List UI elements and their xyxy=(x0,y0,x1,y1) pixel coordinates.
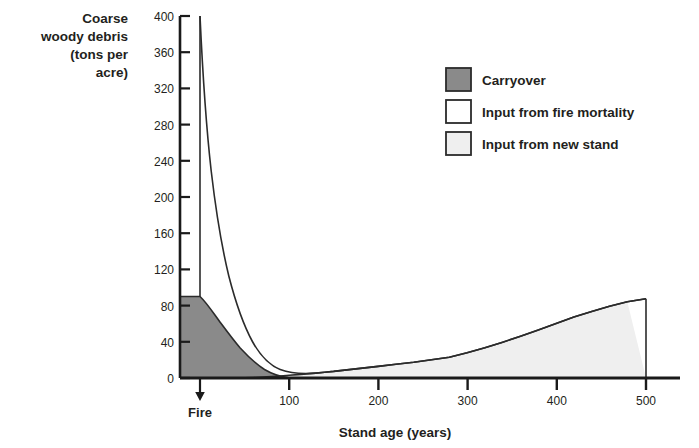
legend-label: Input from fire mortality xyxy=(482,105,635,120)
x-tick-label: 400 xyxy=(547,394,567,408)
x-tick-label: 200 xyxy=(368,394,388,408)
legend-label: Carryover xyxy=(482,73,547,88)
x-tick-label: 500 xyxy=(636,394,656,408)
y-tick-label: 200 xyxy=(154,191,174,205)
x-axis: 100 200 300 400 500 xyxy=(180,378,680,408)
y-tick-label: 280 xyxy=(154,119,174,133)
y-axis-title-line: (tons per xyxy=(70,47,128,62)
y-axis-title-line: Coarse xyxy=(82,11,128,26)
carryover-swatch xyxy=(446,68,471,91)
legend: Carryover Input from fire mortality Inpu… xyxy=(446,68,635,155)
y-tick-label: 40 xyxy=(161,336,175,350)
fire-marker: Fire xyxy=(188,378,212,420)
legend-item-carryover[interactable]: Carryover xyxy=(446,68,547,91)
y-axis-title-line: acre) xyxy=(96,65,128,80)
x-tick-label: 100 xyxy=(279,394,299,408)
y-tick-label: 80 xyxy=(161,300,175,314)
y-tick-label: 360 xyxy=(154,46,174,60)
y-tick-label: 0 xyxy=(167,372,174,386)
x-axis-tick-labels: 100 200 300 400 500 xyxy=(279,394,656,408)
y-axis-tick-labels: 400 360 320 280 240 200 160 120 80 40 0 xyxy=(154,10,174,386)
fire-arrow-head xyxy=(195,392,205,401)
y-tick-label: 240 xyxy=(154,155,174,169)
area-input-from-new-stand xyxy=(200,302,646,378)
y-axis-title-line: woody debris xyxy=(40,29,128,44)
y-tick-label: 120 xyxy=(154,263,174,277)
x-axis-ticks xyxy=(289,378,646,390)
fire-marker-label: Fire xyxy=(188,405,212,420)
legend-item-fire-mortality[interactable]: Input from fire mortality xyxy=(446,100,635,123)
y-tick-label: 320 xyxy=(154,82,174,96)
y-tick-label: 160 xyxy=(154,227,174,241)
new-stand-swatch xyxy=(446,132,471,155)
area-carryover xyxy=(180,297,307,379)
legend-label: Input from new stand xyxy=(482,137,619,152)
coarse-woody-debris-chart: 400 360 320 280 240 200 160 120 80 40 0 … xyxy=(0,0,699,448)
y-axis-title: Coarse woody debris (tons per acre) xyxy=(40,11,129,80)
y-tick-label: 400 xyxy=(154,10,174,24)
x-axis-title: Stand age (years) xyxy=(339,425,452,440)
legend-item-new-stand[interactable]: Input from new stand xyxy=(446,132,619,155)
x-tick-label: 300 xyxy=(458,394,478,408)
fire-mortality-swatch xyxy=(446,100,471,123)
